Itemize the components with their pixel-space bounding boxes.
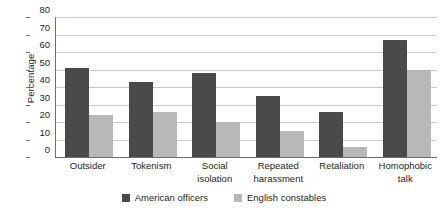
x-tick-label-line: Homophobic [374,160,438,173]
bar [407,70,431,158]
y-tick-label: 20 [26,110,50,120]
legend: American officersEnglish constables [0,193,448,203]
y-tick-label: 30 [26,93,50,103]
y-tick-mark [26,17,30,18]
y-tick-label: 50 [26,58,50,68]
gridline [56,52,437,53]
x-tick-label-line: Outsider [56,160,120,173]
gridline [56,35,437,36]
y-tick-label: 0 [26,145,50,155]
gridline [56,140,437,141]
x-tick-label: Tokenism [120,160,184,173]
bar [192,73,216,157]
x-tick-label-line: talk [374,173,438,186]
plot-area [56,17,437,157]
bar [89,115,113,157]
bar-group [65,17,113,157]
y-tick-mark [26,52,30,53]
bar [216,122,240,157]
bar [383,40,407,157]
gridline [56,122,437,123]
gridline [56,17,437,18]
legend-swatch-icon [234,194,242,202]
bar-group [319,17,367,157]
legend-item[interactable]: English constables [234,193,326,203]
y-tick-mark [26,140,30,141]
bar [256,96,280,157]
x-tick-label-line: Tokenism [120,160,184,173]
gridline [56,105,437,106]
bar-chart: Percentage 01020304050607080 OutsiderTok… [0,0,448,217]
bar [319,112,343,158]
bar-group [129,17,177,157]
legend-swatch-icon [122,194,130,202]
x-tick-label: Outsider [56,160,120,173]
bar-group [383,17,431,157]
x-tick-label-line: isolation [183,173,247,186]
y-tick-label: 40 [26,75,50,85]
x-axis-category-labels: OutsiderTokenismSocialisolationRepeatedh… [56,160,437,196]
bar [65,68,89,157]
y-tick-label: 70 [26,23,50,33]
gridline [56,87,437,88]
y-tick-mark [26,105,30,106]
bar [280,131,304,157]
x-tick-label: Homophobictalk [374,160,438,185]
y-tick-mark [26,35,30,36]
x-tick-label-line: harassment [247,173,311,186]
x-tick-label-line: Social [183,160,247,173]
y-tick-mark [26,122,30,123]
x-tick-label: Repeatedharassment [247,160,311,185]
legend-item[interactable]: American officers [122,193,208,203]
y-tick-mark [26,87,30,88]
x-axis-line [55,157,437,158]
y-tick-mark [26,70,30,71]
x-tick-label-line: Retaliation [310,160,374,173]
legend-label: American officers [135,193,208,203]
x-tick-label: Retaliation [310,160,374,173]
bar [129,82,153,157]
legend-label: English constables [247,193,326,203]
bar [153,112,177,158]
x-tick-label-line: Repeated [247,160,311,173]
bar [343,147,367,158]
y-tick-label: 60 [26,40,50,50]
y-tick-label: 10 [26,128,50,138]
bar-group [192,17,240,157]
y-tick-mark [26,157,30,158]
y-tick-label: 80 [26,5,50,15]
bar-group [256,17,304,157]
x-tick-label: Socialisolation [183,160,247,185]
gridline [56,70,437,71]
